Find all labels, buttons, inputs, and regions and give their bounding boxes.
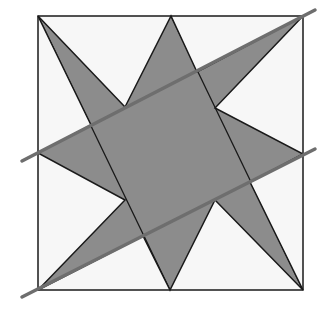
- eight-pointed-star: [38, 16, 303, 290]
- star-diagram: [0, 0, 335, 311]
